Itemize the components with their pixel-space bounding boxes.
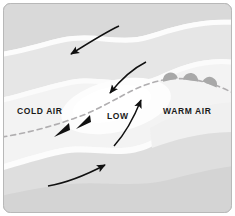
label-cold-air: COLD AIR — [17, 106, 63, 116]
label-warm-air: WARM AIR — [163, 106, 211, 116]
label-low: LOW — [107, 111, 129, 121]
weather-diagram-canvas: COLD AIR LOW WARM AIR — [0, 0, 235, 216]
frontal-system-diagram: COLD AIR LOW WARM AIR — [0, 0, 235, 216]
diagram-content: COLD AIR LOW WARM AIR — [0, 0, 235, 216]
